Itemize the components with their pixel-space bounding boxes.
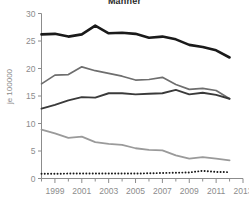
chart-container: Männer je 100000 051015202530 1999200120…: [0, 0, 249, 206]
y-tick-label: 0: [31, 174, 36, 184]
y-tick-label: 20: [26, 64, 36, 74]
x-tick-label: 2013: [234, 186, 249, 196]
x-tick-label: 2003: [99, 186, 118, 196]
series-line: [42, 130, 230, 161]
series-line: [42, 171, 230, 174]
x-tick-label: 2009: [180, 186, 199, 196]
x-tick-label: 1999: [45, 186, 64, 196]
y-tick-label: 10: [26, 119, 36, 129]
y-axis: 051015202530: [26, 9, 41, 184]
series-group: [42, 26, 230, 174]
series-line: [42, 26, 230, 58]
x-tick-label: 2011: [207, 186, 226, 196]
y-tick-label: 15: [26, 91, 36, 101]
x-tick-label: 2001: [72, 186, 91, 196]
x-axis: 19992001200320052007200920112013: [42, 179, 250, 196]
y-tick-label: 30: [26, 9, 36, 19]
y-tick-label: 25: [26, 36, 36, 46]
x-tick-label: 2005: [126, 186, 145, 196]
x-tick-label: 2007: [153, 186, 172, 196]
y-tick-label: 5: [31, 146, 36, 156]
chart-plot: 051015202530 199920012003200520072009201…: [0, 0, 249, 206]
series-line: [42, 90, 230, 109]
